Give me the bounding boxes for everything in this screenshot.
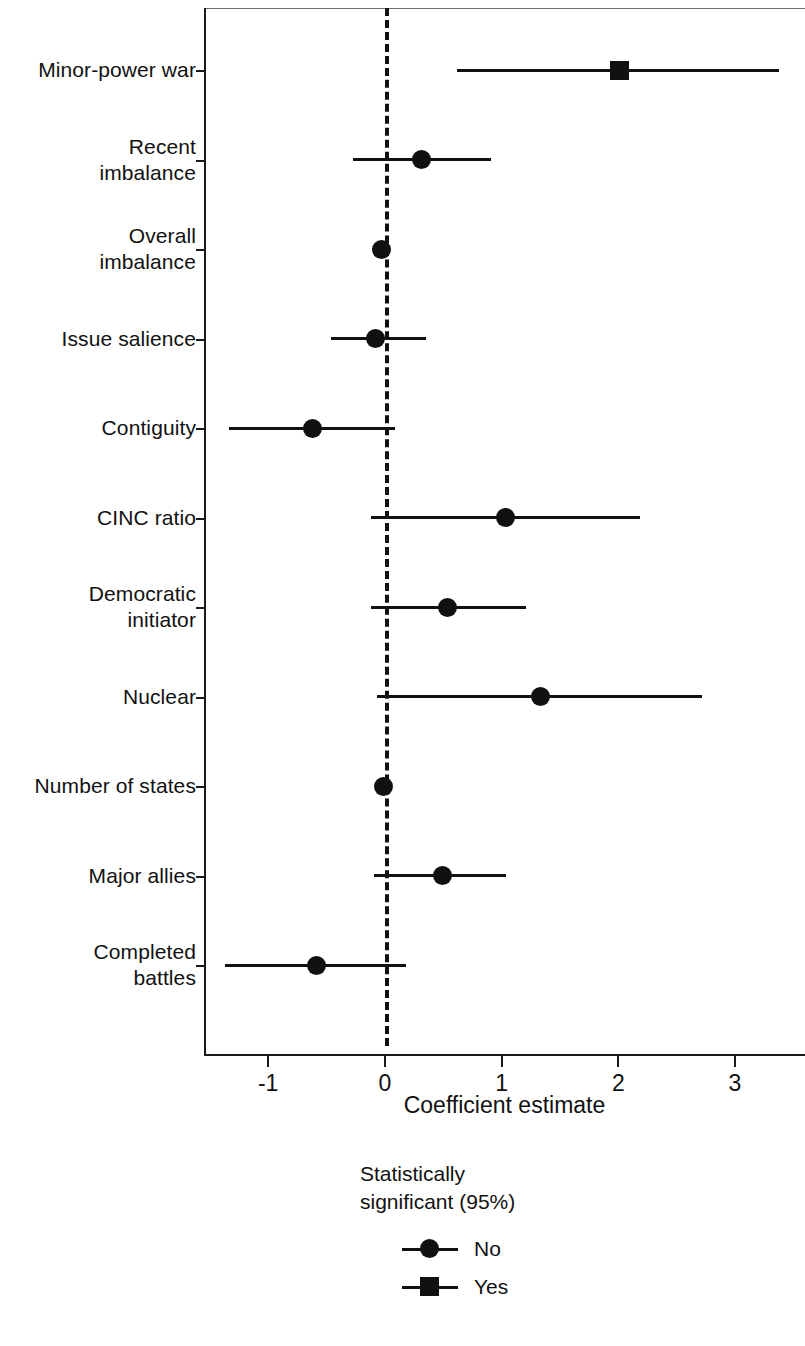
y-axis-tick xyxy=(196,607,204,609)
y-axis-line xyxy=(204,8,206,1056)
estimate-marker[interactable] xyxy=(433,866,452,885)
legend-label-yes: Yes xyxy=(474,1275,508,1299)
coefficient-plot-figure: Minor-power warRecent imbalanceOverall i… xyxy=(0,0,805,1346)
y-axis-tick xyxy=(196,339,204,341)
legend: Statistically significant (95%) No Yes xyxy=(360,1160,680,1306)
y-axis-label: CINC ratio xyxy=(97,505,196,531)
y-axis-label: Issue salience xyxy=(62,326,196,352)
legend-item-no[interactable]: No xyxy=(360,1230,680,1268)
y-axis-tick xyxy=(196,697,204,699)
y-axis-label: Minor-power war xyxy=(38,57,196,83)
y-axis-label: Nuclear xyxy=(123,684,196,710)
x-axis-tick xyxy=(384,1056,386,1067)
estimate-marker[interactable] xyxy=(438,598,457,617)
estimate-marker[interactable] xyxy=(307,956,326,975)
y-axis-label: Recent imbalance xyxy=(99,134,196,186)
estimate-marker[interactable] xyxy=(412,150,431,169)
y-axis-labels: Minor-power warRecent imbalanceOverall i… xyxy=(0,0,196,1056)
legend-item-yes[interactable]: Yes xyxy=(360,1268,680,1306)
estimate-marker[interactable] xyxy=(303,419,322,438)
y-axis-tick xyxy=(196,249,204,251)
x-axis-title: Coefficient estimate xyxy=(204,1092,805,1119)
x-axis-tick xyxy=(617,1056,619,1067)
y-axis-label: Major allies xyxy=(89,863,196,889)
y-axis-tick xyxy=(196,160,204,162)
plot-panel: -10123 xyxy=(204,8,805,1056)
y-axis-label: Democratic initiator xyxy=(89,581,196,633)
estimate-marker[interactable] xyxy=(531,687,550,706)
x-axis-tick xyxy=(734,1056,736,1067)
x-axis-tick xyxy=(267,1056,269,1067)
legend-title: Statistically significant (95%) xyxy=(360,1160,680,1216)
y-axis-tick xyxy=(196,518,204,520)
estimate-marker[interactable] xyxy=(374,777,393,796)
y-axis-label: Number of states xyxy=(35,773,197,799)
estimate-marker-significant[interactable] xyxy=(610,61,629,80)
estimate-marker[interactable] xyxy=(372,240,391,259)
legend-marker-square-icon xyxy=(402,1277,458,1297)
legend-label-no: No xyxy=(474,1237,501,1261)
x-axis-line xyxy=(204,1054,805,1056)
legend-marker-circle-icon xyxy=(402,1239,458,1259)
y-axis-tick xyxy=(196,786,204,788)
zero-reference-line xyxy=(385,8,389,1046)
y-axis-tick xyxy=(196,70,204,72)
estimate-marker[interactable] xyxy=(496,508,515,527)
legend-items: No Yes xyxy=(360,1230,680,1306)
y-axis-label: Overall imbalance xyxy=(99,223,196,275)
y-axis-label: Contiguity xyxy=(102,415,196,441)
y-axis-tick xyxy=(196,876,204,878)
panel-top-border xyxy=(204,8,805,9)
y-axis-label: Completed battles xyxy=(94,939,196,991)
estimate-marker[interactable] xyxy=(366,329,385,348)
x-axis-tick xyxy=(501,1056,503,1067)
y-axis-tick xyxy=(196,965,204,967)
y-axis-tick xyxy=(196,428,204,430)
